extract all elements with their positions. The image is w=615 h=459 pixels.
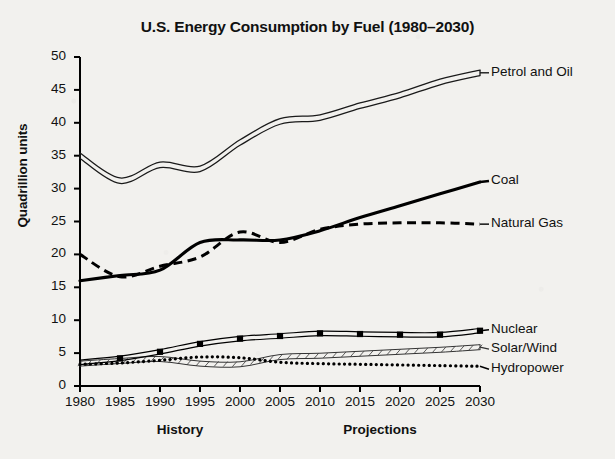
y-tick-0: 0 — [36, 377, 66, 392]
y-tick-45: 45 — [36, 81, 66, 96]
series-connector — [480, 347, 489, 349]
series-connector — [480, 330, 489, 331]
chart-page: U.S. Energy Consumption by Fuel (1980–20… — [0, 0, 615, 459]
x-tick-1990: 1990 — [138, 394, 182, 409]
y-tick-30: 30 — [36, 180, 66, 195]
x-tick-2015: 2015 — [338, 394, 382, 409]
period-label-history: History — [120, 422, 240, 437]
x-tick-1985: 1985 — [98, 394, 142, 409]
y-tick-15: 15 — [36, 278, 66, 293]
series-label-coal: Coal — [491, 172, 519, 187]
x-tick-2000: 2000 — [218, 394, 262, 409]
x-tick-2005: 2005 — [258, 394, 302, 409]
series-petrol-and-oil — [80, 70, 480, 184]
y-tick-25: 25 — [36, 213, 66, 228]
y-tick-10: 10 — [36, 311, 66, 326]
series-natural-gas — [80, 223, 480, 277]
series-label-hydropower: Hydropower — [491, 360, 564, 375]
x-tick-2010: 2010 — [298, 394, 342, 409]
x-tick-1980: 1980 — [58, 394, 102, 409]
series-connector — [480, 366, 489, 369]
y-tick-40: 40 — [36, 114, 66, 129]
y-tick-50: 50 — [36, 48, 66, 63]
series-label-natural-gas: Natural Gas — [491, 215, 563, 230]
y-tick-20: 20 — [36, 245, 66, 260]
series-hydropower — [80, 357, 480, 366]
y-tick-35: 35 — [36, 147, 66, 162]
series-label-nuclear: Nuclear — [491, 321, 538, 336]
x-tick-2025: 2025 — [418, 394, 462, 409]
series-label-solar-wind: Solar/Wind — [491, 340, 557, 355]
series-label-petrol-and-oil: Petrol and Oil — [491, 64, 573, 79]
series-coal — [80, 182, 480, 281]
y-tick-5: 5 — [36, 344, 66, 359]
series-connector — [480, 181, 489, 182]
x-tick-2030: 2030 — [458, 394, 502, 409]
x-tick-2020: 2020 — [378, 394, 422, 409]
period-label-projections: Projections — [320, 422, 440, 437]
series-solar-wind — [80, 345, 480, 368]
x-tick-1995: 1995 — [178, 394, 222, 409]
